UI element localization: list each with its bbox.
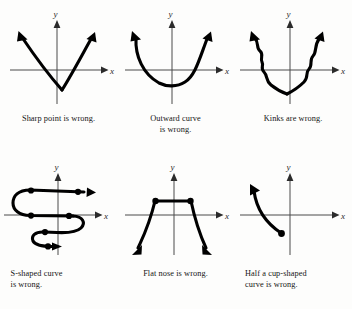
panel-s-shaped: x y bbox=[0, 155, 117, 309]
panel-flat-nose: x y Flat nose is wrong. bbox=[117, 155, 234, 309]
panel-sharp-point: x y Sharp point is wrong. bbox=[0, 0, 117, 155]
y-axis-arrowhead bbox=[286, 20, 293, 28]
turning-dot-upper-left bbox=[28, 187, 34, 193]
curve-right-kinked-arm bbox=[287, 39, 319, 94]
plot-sharp-point: x y bbox=[0, 8, 117, 112]
turning-dot-mid-right bbox=[66, 213, 72, 219]
x-axis-arrowhead bbox=[216, 212, 224, 219]
x-axis-arrowhead bbox=[101, 67, 109, 74]
x-axis-label: x bbox=[340, 66, 345, 76]
curve-flat-nose bbox=[132, 198, 212, 255]
panel-half-cup: x y Half a cup-shaped curve is wrong. bbox=[234, 155, 352, 309]
curve-left-arm bbox=[23, 38, 63, 90]
x-axis-label: x bbox=[224, 66, 229, 76]
endpoint-dot bbox=[278, 230, 285, 237]
y-axis-arrowhead bbox=[54, 20, 61, 28]
x-axis-arrowhead bbox=[332, 212, 340, 219]
plot-outward-curve: x y bbox=[117, 8, 234, 112]
y-axis-label: y bbox=[285, 9, 290, 19]
y-axis-label: y bbox=[170, 163, 175, 172]
turning-dot-lower-left bbox=[42, 229, 48, 235]
curve-half-cup bbox=[250, 184, 285, 237]
y-axis-arrowhead bbox=[286, 173, 293, 181]
y-axis-label: y bbox=[168, 9, 173, 19]
curve-left-kinked-arm bbox=[255, 38, 287, 94]
corner-dot-left bbox=[152, 198, 158, 204]
corner-dot-right bbox=[187, 198, 193, 204]
axes-outward-curve: x y bbox=[125, 9, 229, 104]
panel-grid: x y Sharp point is wrong. bbox=[0, 0, 352, 309]
y-axis-label: y bbox=[53, 9, 58, 19]
curve-decreasing-branch bbox=[254, 191, 281, 233]
axes-half-cup: x y bbox=[240, 163, 345, 255]
y-axis-arrowhead bbox=[55, 173, 62, 181]
x-axis-label: x bbox=[103, 211, 108, 221]
y-axis-label: y bbox=[54, 163, 59, 172]
x-axis-label: x bbox=[340, 211, 345, 221]
plot-kinks: x y bbox=[235, 8, 352, 112]
plot-flat-nose: x y bbox=[117, 163, 234, 267]
x-axis-arrowhead bbox=[95, 212, 103, 219]
x-axis-arrowhead bbox=[332, 67, 340, 74]
curve-kinks bbox=[249, 31, 324, 94]
turning-dot-lower-bottom bbox=[45, 243, 51, 249]
y-axis-label: y bbox=[285, 163, 290, 172]
caption-outward-curve: Outward curve is wrong. bbox=[118, 114, 234, 135]
curve-upper-loop bbox=[13, 190, 84, 216]
x-axis-arrowhead bbox=[216, 67, 224, 74]
x-axis-label: x bbox=[109, 66, 114, 76]
curve-s-shaped bbox=[13, 187, 96, 250]
curve-left-arrowhead bbox=[249, 31, 260, 42]
curve-left-arrowhead bbox=[17, 31, 28, 42]
caption-sharp-point: Sharp point is wrong. bbox=[1, 114, 117, 125]
plot-half-cup: x y bbox=[235, 163, 352, 267]
caption-s-shaped: S-shaped curve is wrong. bbox=[1, 269, 117, 290]
caption-flat-nose: Flat nose is wrong. bbox=[118, 269, 234, 280]
y-axis-arrowhead bbox=[171, 173, 178, 181]
curve-trapezoid-outline bbox=[138, 201, 206, 248]
x-axis-label: x bbox=[224, 211, 229, 221]
panel-kinks: x y Kinks are wrong. bbox=[234, 0, 352, 155]
curve-right-arm bbox=[62, 39, 91, 90]
curve-u-shape bbox=[136, 38, 207, 86]
plot-s-shaped: x y bbox=[0, 163, 117, 267]
curve-lower-arrowhead bbox=[52, 243, 62, 251]
axes-s-shaped: x y bbox=[4, 163, 108, 255]
y-axis-arrowhead bbox=[169, 20, 176, 28]
turning-dot-upper-right bbox=[75, 189, 81, 195]
curve-left-arrowhead bbox=[131, 31, 142, 42]
caption-half-cup: Half a cup-shaped curve is wrong. bbox=[235, 269, 351, 290]
caption-kinks: Kinks are wrong. bbox=[235, 114, 351, 125]
curve-upper-arrowhead bbox=[87, 188, 97, 198]
turning-dot-mid-left bbox=[28, 213, 34, 219]
figure-sheet: x y Sharp point is wrong. bbox=[0, 0, 352, 309]
panel-outward-curve: x y Outward curve is wrong. bbox=[117, 0, 234, 155]
